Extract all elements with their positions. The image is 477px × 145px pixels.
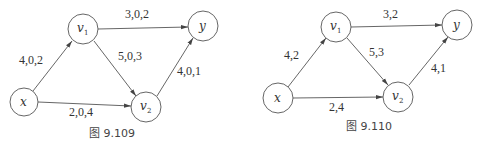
edge-label-x-v2: 2,0,4 — [69, 105, 93, 119]
svg-text:v: v — [392, 89, 399, 103]
edge-label-v1-v2: 5,0,3 — [118, 49, 142, 63]
svg-text:2: 2 — [147, 107, 151, 115]
figure-9-109: x v 1 y v 2 4,0,2 3,0,2 5,0,3 4,0,1 2,0,… — [10, 7, 218, 140]
edge-label-v2-y: 4,1 — [431, 61, 446, 75]
svg-text:1: 1 — [84, 29, 88, 37]
svg-text:v: v — [330, 19, 337, 33]
edge-v1-y — [351, 25, 442, 27]
svg-text:y: y — [198, 19, 206, 33]
figure-9-110: x v 1 y v 2 4,2 3,2 5,3 4,1 2,4 图 9.110 — [263, 7, 472, 133]
node-v2: v 2 — [383, 82, 413, 112]
svg-text:2: 2 — [399, 97, 403, 105]
svg-text:x: x — [20, 95, 27, 109]
figure-caption: 图 9.109 — [89, 127, 135, 140]
edge-label-v2-y: 4,0,1 — [177, 64, 201, 78]
node-v1: v 1 — [321, 12, 351, 42]
node-x: x — [10, 88, 38, 116]
edge-label-v1-y: 3,2 — [383, 7, 398, 21]
node-y: y — [442, 10, 472, 40]
svg-text:x: x — [274, 91, 281, 105]
svg-text:v: v — [77, 21, 84, 35]
edge-label-x-v1: 4,2 — [284, 48, 299, 62]
node-v2: v 2 — [131, 92, 161, 122]
node-x: x — [263, 83, 293, 113]
edge-v1-y — [98, 27, 188, 29]
edge-x-v2 — [293, 97, 383, 98]
edge-label-x-v2: 2,4 — [329, 100, 344, 114]
svg-text:1: 1 — [337, 27, 341, 35]
edge-label-v1-v2: 5,3 — [369, 45, 384, 59]
svg-text:y: y — [452, 18, 460, 32]
edge-x-v1 — [288, 38, 326, 87]
edge-label-v1-y: 3,0,2 — [125, 7, 149, 21]
figure-caption: 图 9.110 — [346, 120, 392, 133]
network-flow-diagrams: x v 1 y v 2 4,0,2 3,0,2 5,0,3 4,0,1 2,0,… — [0, 0, 477, 145]
node-y: y — [188, 11, 218, 41]
node-v1: v 1 — [68, 14, 98, 44]
edge-label-x-v1: 4,0,2 — [19, 53, 43, 67]
svg-text:v: v — [140, 99, 147, 113]
